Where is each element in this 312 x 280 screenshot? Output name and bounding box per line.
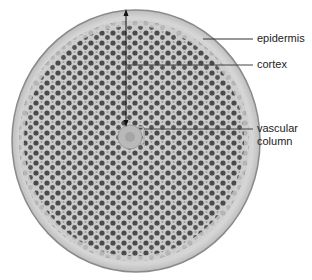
label-cortex: cortex: [257, 58, 287, 71]
label-vascular-line2: column: [257, 135, 298, 148]
label-epidermis: epidermis: [257, 32, 305, 45]
label-vascular-column: vascular column: [257, 122, 298, 148]
label-vascular-line1: vascular: [257, 122, 298, 135]
